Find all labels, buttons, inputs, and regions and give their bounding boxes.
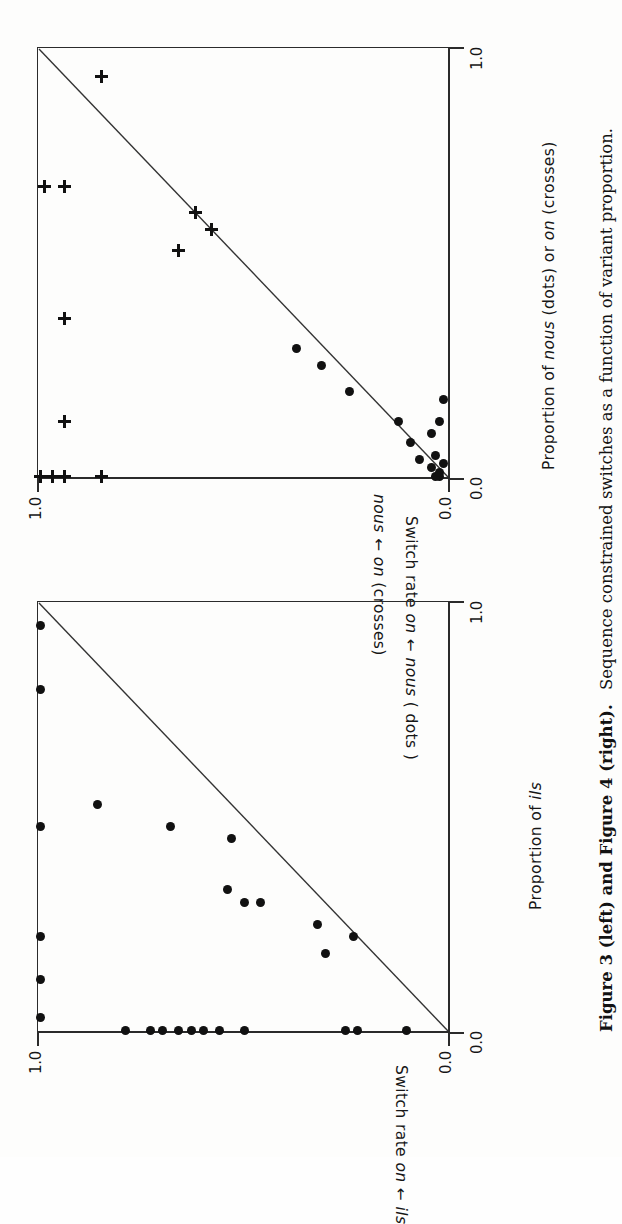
- figure-3-xtick-label-min: 0.0: [468, 1031, 486, 1054]
- datapoint-dot: [402, 1026, 411, 1035]
- datapoint-dot: [435, 468, 444, 477]
- datapoint-dot: [431, 451, 440, 460]
- figure-3-x-axis-label: Proportion of ils: [527, 782, 545, 910]
- figure-3-ytick-label-max: 1.0: [27, 1051, 45, 1074]
- figure-3-xtick-1: [450, 601, 464, 603]
- datapoint-dot: [313, 920, 322, 929]
- figure-4-xtick-1: [450, 47, 464, 49]
- datapoint-dot: [158, 1026, 167, 1035]
- figure-3-xlabel-text: Proportion of ils: [527, 782, 545, 910]
- datapoint-dot: [187, 1026, 196, 1035]
- datapoint-dot: [166, 822, 175, 831]
- figure-3-xtick-label-max: 1.0: [468, 601, 486, 624]
- datapoint-cross: [58, 312, 71, 325]
- figure-4-ytick-1: [37, 479, 39, 492]
- figure-3-ytick-0: [448, 1033, 450, 1046]
- datapoint-cross: [38, 180, 51, 193]
- figure-4-ytick-label-max: 1.0: [27, 497, 45, 520]
- figure-4-ytick-label-min: 0.0: [437, 497, 455, 520]
- figure-4-xtick-label-min: 0.0: [468, 477, 486, 500]
- datapoint-cross: [58, 415, 71, 428]
- figure-3-ylabel-text: Switch rate on ← ils: [392, 1065, 410, 1224]
- figure-3-ytick-label-min: 0.0: [437, 1051, 455, 1074]
- datapoint-dot: [353, 1026, 362, 1035]
- figure-caption-rest: Sequence constrained switches as a funct…: [597, 128, 616, 690]
- datapoint-cross: [189, 206, 202, 219]
- datapoint-dot: [146, 1026, 155, 1035]
- datapoint-dot: [36, 822, 45, 831]
- reference-diagonal: [37, 47, 450, 479]
- figure-3-reference-diagonal: [37, 601, 450, 1033]
- datapoint-dot: [394, 417, 403, 426]
- datapoint-dot: [36, 975, 45, 984]
- figure-4-xtick-0: [450, 478, 464, 480]
- figure-caption-bold: Figure 3 (left) and Figure 4 (right).: [597, 704, 616, 1032]
- figure-4-x-axis-label: Proportion of nous (dots) or on (crosses…: [540, 141, 558, 470]
- datapoint-cross: [205, 223, 218, 236]
- datapoint-dot: [435, 417, 444, 426]
- datapoint-dot: [121, 1026, 130, 1035]
- figure-caption: Figure 3 (left) and Figure 4 (right). Se…: [597, 128, 616, 1032]
- datapoint-cross: [95, 470, 108, 483]
- datapoint-dot: [341, 1026, 350, 1035]
- datapoint-dot: [240, 898, 249, 907]
- figure-4-plot: [37, 47, 450, 479]
- datapoint-cross: [46, 470, 59, 483]
- figure-3-xtick-0: [450, 1032, 464, 1034]
- datapoint-dot: [215, 1026, 224, 1035]
- figure-3-plot: [37, 601, 450, 1033]
- datapoint-dot: [240, 1026, 249, 1035]
- figure-4-ytick-0: [448, 479, 450, 492]
- datapoint-cross: [172, 244, 185, 257]
- datapoint-dot: [256, 898, 265, 907]
- datapoint-dot: [317, 361, 326, 370]
- figure-4-xtick-label-max: 1.0: [468, 47, 486, 70]
- datapoint-cross: [58, 470, 71, 483]
- datapoint-dot: [174, 1026, 183, 1035]
- datapoint-cross: [95, 70, 108, 83]
- figure-4-xlabel-text: Proportion of nous (dots) or on (crosses…: [540, 141, 558, 470]
- datapoint-dot: [415, 455, 424, 464]
- datapoint-cross: [58, 180, 71, 193]
- datapoint-dot: [199, 1026, 208, 1035]
- figure-3-y-axis-label: Switch rate on ← ils: [392, 1065, 410, 1224]
- figure-3-ytick-1: [37, 1033, 39, 1046]
- datapoint-cross: [34, 470, 47, 483]
